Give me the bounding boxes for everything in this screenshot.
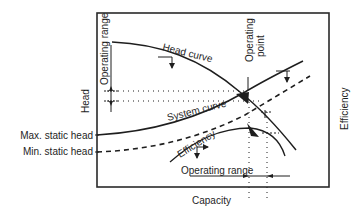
operating-range-v-arrow-up [109,86,113,91]
operating-range-vertical-label: Operating range [99,12,110,85]
y-axis-label-efficiency: Efficiency [339,87,350,130]
efficiency-label: Efficiency [175,128,217,160]
system-curve-line [97,61,303,135]
y-axis-label-head: Head [80,89,91,113]
operating-point-marker [236,92,249,104]
operating-point-label-2: point [255,35,266,57]
operating-point-label-1: Operating [244,18,255,62]
min-static-head-label: Min. static head [23,146,93,157]
head-curve-label: Head curve [162,41,215,64]
efficiency-point-marker [247,123,259,137]
operating-range-horizontal-label: Operating range [181,165,254,176]
operating-range-h-arrow-left [267,174,273,178]
max-static-head-label: Max. static head [20,130,93,141]
x-axis-label-capacity: Capacity [192,195,231,206]
pump-curve-diagram: Head curve System curve Efficiency Opera… [0,0,359,217]
operating-range-v-arrow-down [109,101,113,106]
